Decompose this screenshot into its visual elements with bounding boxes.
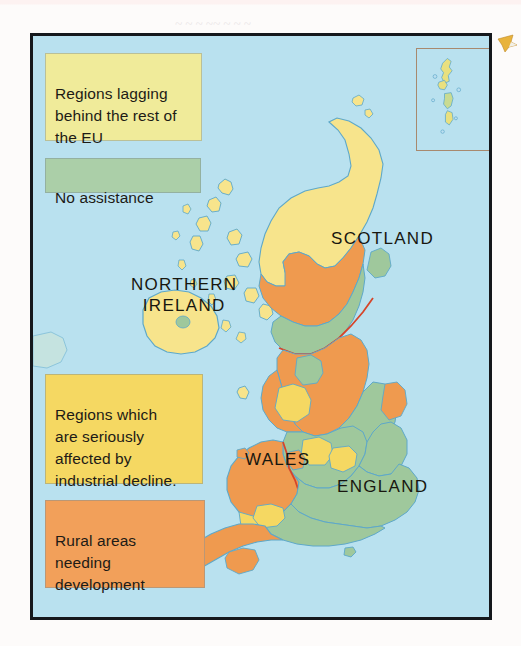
legend-item-lagging[interactable]: Regions lagging behind the rest of the E…	[45, 53, 202, 141]
bleed-through-text: ~ ~ ~ ~~ ~ ~ ~	[175, 16, 251, 32]
lough-neagh	[176, 316, 190, 328]
legend-label-rural-development: Rural areas needing development	[55, 532, 145, 593]
page-pointer-arrow-icon	[497, 33, 519, 53]
legend-item-industrial-decline[interactable]: Regions which are seriously affected by …	[45, 374, 203, 484]
map-label-england: ENGLAND	[337, 476, 428, 497]
map-label-wales: WALES	[245, 449, 310, 470]
legend-label-no-assistance: No assistance	[55, 189, 154, 206]
isle-of-man	[237, 386, 249, 399]
map-label-northern-ireland: NORTHERN IRELAND	[131, 274, 237, 317]
shetland-inset-frame	[416, 48, 490, 151]
legend-item-rural-development[interactable]: Rural areas needing development	[45, 500, 205, 588]
map-label-scotland: SCOTLAND	[331, 228, 434, 249]
region-highlands-islands	[259, 118, 383, 286]
legend-label-lagging: Regions lagging behind the rest of the E…	[55, 85, 177, 146]
isle-of-wight	[344, 547, 356, 557]
legend-label-industrial-decline: Regions which are seriously affected by …	[55, 406, 177, 489]
map-panel: Regions lagging behind the rest of the E…	[30, 33, 492, 620]
region-industrial-north	[275, 384, 311, 422]
legend-item-no-assistance[interactable]: No assistance	[45, 158, 201, 193]
